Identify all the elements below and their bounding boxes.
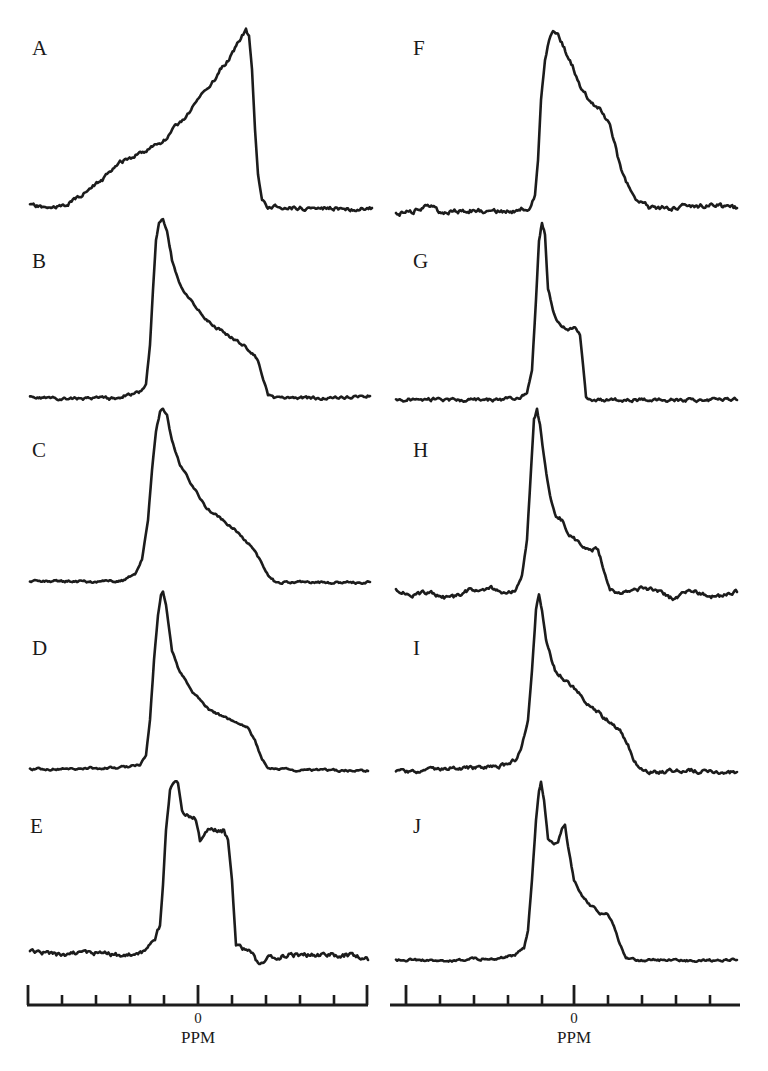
panel-label-d: D (32, 636, 47, 661)
spectrum-d (30, 592, 368, 772)
panel-label-c: C (32, 438, 46, 463)
panel-label-i: I (413, 636, 420, 661)
spectrum-j (396, 782, 737, 962)
spectrum-h (396, 409, 737, 600)
panel-label-j: J (413, 814, 421, 839)
nmr-spectra-figure (0, 0, 768, 1071)
left-axis-unit-label: PPM (168, 1028, 228, 1048)
panel-label-e: E (30, 814, 43, 839)
spectrum-f (396, 31, 737, 216)
panel-label-f: F (413, 36, 425, 61)
panel-label-h: H (413, 438, 428, 463)
spectra-curves (30, 29, 737, 964)
panel-label-b: B (32, 249, 46, 274)
right-axis-zero-label: 0 (554, 1010, 594, 1027)
panel-label-a: A (32, 36, 47, 61)
panel-label-g: G (413, 249, 428, 274)
spectrum-b (30, 219, 370, 400)
ppm-axes (27, 985, 740, 1005)
spectrum-a (30, 29, 372, 211)
spectrum-e (30, 781, 368, 964)
right-axis-unit-label: PPM (544, 1028, 604, 1048)
left-axis-zero-label: 0 (178, 1010, 218, 1027)
spectrum-i (396, 594, 737, 774)
spectrum-c (30, 409, 370, 584)
spectrum-g (396, 223, 737, 402)
